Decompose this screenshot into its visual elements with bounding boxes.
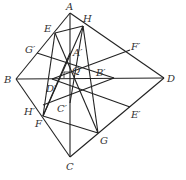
point-label-Cp: C′ — [57, 103, 68, 114]
point-label-A: A — [65, 1, 73, 12]
point-label-F: F — [34, 118, 43, 129]
point-label-Fp: F′ — [130, 41, 141, 52]
point-label-Gp: G′ — [25, 44, 36, 55]
point-label-Ep: E′ — [130, 109, 141, 120]
point-label-G: G — [100, 135, 108, 146]
point-label-Hp: H′ — [23, 106, 36, 117]
geometry-diagram: ABCDEHFGG′F′E′H′A′B′C′D′Q — [0, 0, 186, 180]
diagram-segments — [16, 13, 164, 157]
point-label-C: C — [66, 161, 74, 172]
point-label-B: B — [3, 74, 11, 85]
point-label-H: H — [82, 13, 92, 24]
point-label-Bp: B′ — [95, 67, 106, 78]
point-label-Ap: A′ — [72, 47, 83, 58]
point-label-Q: Q — [72, 65, 80, 76]
segment-B-C — [16, 79, 70, 157]
point-label-E: E — [43, 23, 52, 34]
point-label-D: D — [166, 73, 175, 84]
point-label-Dp: D′ — [45, 83, 57, 94]
